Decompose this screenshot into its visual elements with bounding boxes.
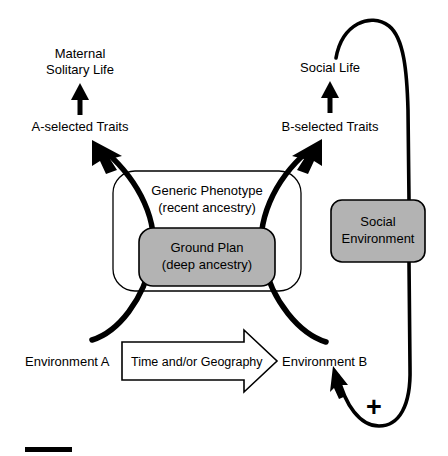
figure-svg: + Maternal Solitary Life A-select: [0, 0, 448, 456]
a-selected-traits-label: A-selected Traits: [32, 119, 129, 134]
generic-phenotype-label-line2: (recent ancestry): [158, 200, 256, 215]
time-geography-label: Time and/or Geography: [131, 355, 263, 369]
maternal-label-line2: Solitary Life: [46, 62, 114, 77]
arrowhead-b-selected-traits: [292, 139, 322, 174]
connector-social-life-to-social-environment: [336, 20, 409, 200]
arrow-a-traits-to-maternal: [71, 83, 89, 115]
social-environment-label-line1: Social: [360, 214, 396, 229]
environment-a-label: Environment A: [25, 354, 110, 369]
scale-bar: [25, 447, 72, 452]
plus-sign-label: +: [366, 392, 382, 422]
generic-phenotype-label-line1: Generic Phenotype: [151, 183, 262, 198]
social-environment-label-line2: Environment: [342, 231, 415, 246]
arrowhead-a-selected-traits: [92, 140, 122, 174]
b-selected-traits-label: B-selected Traits: [282, 119, 379, 134]
ground-plan-label-line2: (deep ancestry): [162, 257, 252, 272]
arrow-b-traits-to-social-life: [321, 81, 339, 113]
diagram-canvas: + Maternal Solitary Life A-select: [0, 0, 448, 456]
social-life-label: Social Life: [300, 60, 360, 75]
environment-b-label: Environment B: [282, 354, 367, 369]
maternal-label-line1: Maternal: [55, 46, 106, 61]
ground-plan-label-line1: Ground Plan: [171, 240, 244, 255]
